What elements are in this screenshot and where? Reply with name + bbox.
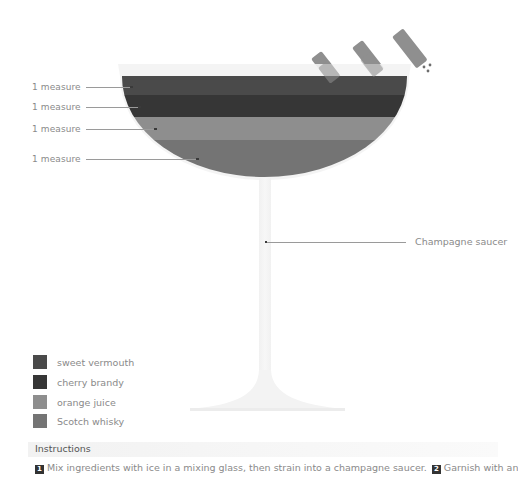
leader-line (86, 107, 140, 108)
glass-leader-line (266, 242, 406, 243)
glass-type-label: Champagne saucer (415, 236, 507, 247)
legend-label: Scotch whisky (57, 416, 124, 427)
step-text: Mix ingredients with ice in a mixing gla… (47, 462, 427, 473)
legend-swatch (33, 375, 47, 389)
step-text: Garnish with an (444, 462, 518, 473)
legend-item-cherry-brandy: cherry brandy (33, 375, 124, 389)
legend-label: orange juice (57, 397, 116, 408)
layer-cherry-brandy (100, 95, 420, 117)
leader-line (86, 87, 132, 88)
layer-sweet-vermouth (100, 76, 420, 95)
instructions-title: Instructions (35, 443, 91, 454)
legend-item-scotch-whisky: Scotch whisky (33, 414, 124, 428)
leader-line (86, 129, 156, 130)
measure-label: 1 measure (32, 124, 81, 134)
leader-line (86, 159, 198, 160)
glass-foot (190, 370, 345, 409)
legend-swatch (33, 395, 47, 409)
measure-label: 1 measure (32, 82, 81, 92)
legend-label: cherry brandy (57, 377, 124, 388)
step-number-badge: 1 (35, 465, 44, 474)
liquid-layers (100, 76, 420, 180)
legend-label: sweet vermouth (57, 357, 134, 368)
garnish-strip-3 (392, 28, 428, 68)
glass-stem (259, 178, 271, 383)
measure-label: 1 measure (32, 102, 81, 112)
layer-scotch-whisky (100, 140, 420, 180)
legend-item-orange-juice: orange juice (33, 395, 116, 409)
measure-label: 1 measure (32, 154, 81, 164)
legend-swatch (33, 355, 47, 369)
step-number-badge: 2 (432, 465, 441, 474)
legend-swatch (33, 414, 47, 428)
instructions-header-bar (28, 442, 498, 457)
instructions-steps: 1Mix ingredients with ice in a mixing gl… (35, 462, 518, 474)
legend-item-sweet-vermouth: sweet vermouth (33, 355, 134, 369)
